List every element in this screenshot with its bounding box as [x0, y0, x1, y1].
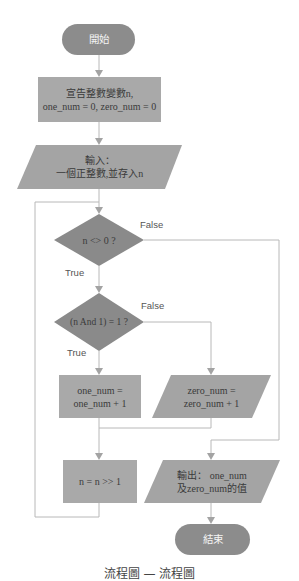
odd-true-label: True: [67, 347, 86, 358]
inc-zero-label: zero_num = zero_num + 1: [152, 375, 271, 418]
nonzero-true-label: True: [65, 267, 84, 278]
inc-one-label: one_num = one_num + 1: [59, 375, 141, 418]
shift-label: n = n >> 1: [63, 460, 137, 503]
odd-false-label: False: [141, 300, 164, 311]
input-line-2: 一個正整數,並存入n: [56, 167, 144, 180]
inc-one-line-2: one_num + 1: [74, 397, 127, 410]
inc-zero-line-1: zero_num =: [187, 384, 235, 397]
input-label: 輸入： 一個正整數,並存入n: [17, 145, 182, 189]
odd-decision-label: (n And 1) = 1 ?: [54, 293, 144, 351]
output-line-2: 及zero_num的值: [177, 482, 247, 495]
start-label: 開始: [62, 24, 135, 55]
declare-line-1: 宣告整數變數n,: [66, 87, 134, 100]
input-line-1: 輸入：: [85, 154, 115, 167]
output-label: 輸出： one_num 及zero_num的值: [144, 460, 280, 503]
inc-zero-line-2: zero_num + 1: [184, 397, 240, 410]
inc-one-line-1: one_num =: [77, 384, 122, 397]
nonzero-false-label: False: [140, 219, 163, 230]
nonzero-decision-label: n <> 0 ?: [54, 214, 144, 266]
declare-line-2: one_num = 0, zero_num = 0: [43, 100, 156, 113]
end-label: 結束: [175, 524, 250, 555]
output-line-1: 輸出： one_num: [177, 469, 247, 482]
connectors: [35, 55, 279, 519]
figure-caption: 流程圖 — 流程圖: [0, 564, 299, 581]
declare-label: 宣告整數變數n, one_num = 0, zero_num = 0: [38, 77, 161, 122]
